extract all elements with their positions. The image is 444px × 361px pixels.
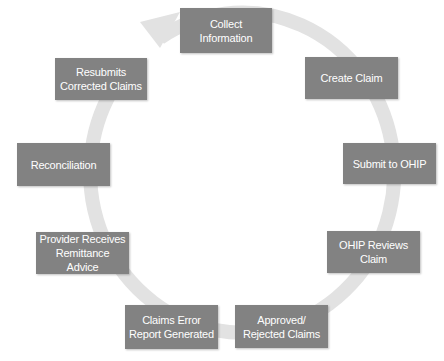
step-submit-to-ohip: Submit to OHIP — [343, 143, 436, 184]
step-claims-error-report: Claims Error Report Generated — [125, 305, 218, 349]
step-reconciliation: Reconciliation — [17, 143, 110, 186]
step-provider-receives-remittance: Provider Receives Remittance Advice — [36, 232, 129, 274]
step-resubmits-corrected: Resubmits Corrected Claims — [55, 58, 147, 100]
step-create-claim: Create Claim — [305, 57, 398, 99]
step-ohip-reviews-claim: OHIP Reviews Claim — [327, 231, 420, 273]
step-approved-rejected: Approved/ Rejected Claims — [235, 305, 328, 348]
step-collect-information: Collect Information — [180, 8, 272, 53]
